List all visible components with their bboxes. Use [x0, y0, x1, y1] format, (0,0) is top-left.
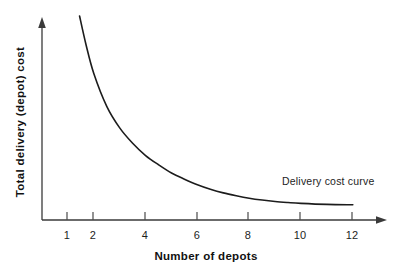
x-axis-tick-labels: 1 2 4 6 8 10 12 [64, 229, 358, 241]
x-axis-title: Number of depots [154, 250, 257, 262]
x-axis-arrow-icon [376, 216, 387, 224]
tick-label-10: 10 [294, 229, 307, 241]
tick-label-2: 2 [90, 229, 96, 241]
tick-label-12: 12 [346, 229, 359, 241]
tick-label-8: 8 [245, 229, 251, 241]
y-axis-arrow-icon [38, 17, 46, 28]
tick-label-1: 1 [64, 229, 70, 241]
delivery-cost-chart: 1 2 4 6 8 10 12 Delivery cost curve Numb… [0, 0, 407, 271]
tick-label-4: 4 [142, 229, 148, 241]
tick-label-6: 6 [194, 229, 200, 241]
y-axis-title: Total delivery (depot) cost [14, 47, 26, 197]
chart-figure: 1 2 4 6 8 10 12 Delivery cost curve Numb… [0, 0, 407, 271]
x-axis-ticks [67, 212, 352, 220]
curve-annotation-label: Delivery cost curve [282, 175, 375, 187]
